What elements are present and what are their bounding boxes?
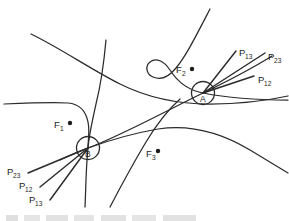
cropped-caption-line [6, 215, 196, 221]
focus-f3-dot [156, 149, 160, 153]
focus-f1-subscript: 1 [60, 125, 64, 132]
node-a-label: A [200, 94, 206, 104]
ray-label-b-p13-subscript: 13 [35, 200, 43, 207]
figure-canvas: A B F 1 F 2 F 3 P 13 [0, 0, 289, 221]
focus-f2-subscript: 2 [182, 70, 186, 77]
ray-label-b-p23-subscript: 23 [13, 172, 21, 179]
focus-f2-dot [190, 67, 194, 71]
focus-f3-subscript: 3 [152, 154, 156, 161]
ray-label-a-p13-subscript: 13 [245, 53, 253, 60]
focus-f1-dot [68, 121, 72, 125]
ray-label-b-p12-subscript: 12 [25, 186, 33, 193]
node-b-label: B [85, 149, 91, 159]
diagram-background [0, 0, 289, 221]
geometric-diagram: A B F 1 F 2 F 3 P 13 [0, 0, 289, 221]
ray-label-a-p23-subscript: 23 [274, 57, 282, 64]
ray-label-a-p12-subscript: 12 [264, 80, 272, 87]
